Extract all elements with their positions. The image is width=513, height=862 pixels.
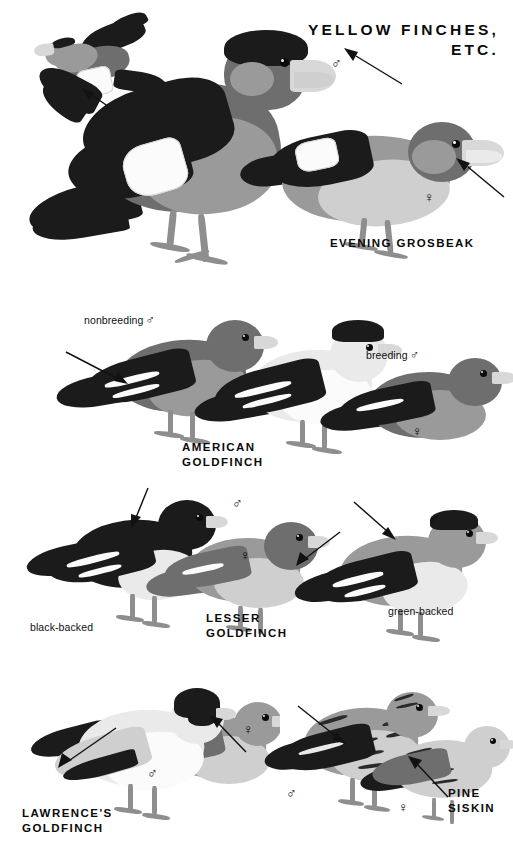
- species-name-evening-grosbeak: EVENING GROSBEAK: [330, 236, 475, 251]
- species-name-american-goldfinch: AMERICAN GOLDFINCH: [182, 440, 263, 470]
- bird-eye: [490, 738, 496, 744]
- field-guide-plate-page: YELLOW FINCHES, ETC.: [0, 0, 513, 862]
- bird-eye: [480, 370, 487, 377]
- sex-symbol-pine-siskin-male: ♂: [286, 786, 297, 800]
- sex-symbol-evening-grosbeak-male: ♂: [331, 56, 342, 70]
- species-name-lawrences-goldfinch: LAWRENCE'S GOLDFINCH: [22, 806, 113, 836]
- label-american-goldfinch-breeding: breeding♂: [366, 348, 419, 362]
- sex-symbol-lawrences-goldfinch-female: ♀: [243, 722, 254, 736]
- label-text: nonbreeding: [84, 314, 144, 326]
- species-name-pine-siskin: PINE SISKIN: [448, 786, 495, 816]
- bird-eye: [416, 704, 423, 711]
- label-american-goldfinch-nonbreeding: nonbreeding♂: [84, 313, 155, 327]
- bird-eye: [452, 140, 460, 148]
- sex-symbol-lesser-goldfinch-green-backed-male: ♂: [428, 512, 439, 526]
- sex-symbol-evening-grosbeak-female: ♀: [424, 190, 435, 204]
- sex-symbol-american-goldfinch-female: ♀: [412, 424, 423, 438]
- sex-symbol-male: ♂: [410, 348, 419, 362]
- sex-symbol-lawrences-goldfinch-male: ♂: [147, 766, 158, 780]
- label-text: breeding: [366, 349, 408, 361]
- label-lesser-goldfinch-green-backed: green-backed: [388, 605, 453, 618]
- bird-eye: [280, 58, 289, 67]
- bird-lesser-goldfinch-green-backed-male: [294, 506, 490, 646]
- species-name-lesser-goldfinch: LESSER GOLDFINCH: [206, 611, 287, 641]
- sex-symbol-male: ♂: [146, 313, 155, 327]
- bird-eye: [466, 530, 473, 537]
- bird-american-goldfinch-female: [320, 352, 506, 470]
- illustration-lawrences-goldfinch: [0, 668, 280, 828]
- sex-symbol-lesser-goldfinch-female: ♀: [240, 548, 251, 562]
- sex-symbol-pine-siskin-female: ♀: [398, 800, 409, 814]
- sex-symbol-lesser-goldfinch-male: ♂: [232, 496, 243, 510]
- label-lesser-goldfinch-black-backed: black-backed: [30, 621, 93, 634]
